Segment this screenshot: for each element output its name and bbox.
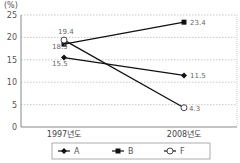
data-label: 15.5 [52,60,68,68]
y-tick-labels: 0510152025 [7,11,17,132]
series-line [64,22,184,44]
y-tick-label: 20 [7,33,17,42]
data-label: 23.4 [190,19,206,27]
x-category-label: 1997년도 [47,129,81,139]
x-category-label: 2008년도 [167,129,201,139]
circle-marker-icon [167,148,173,154]
y-tick-label: 5 [12,101,17,110]
square-marker-icon [116,149,121,154]
legend-label: B [128,147,134,156]
y-tick-label: 15 [7,56,17,65]
circle-marker-icon [61,37,67,43]
legend-label: F [180,147,185,156]
y-tick-label: 25 [7,11,17,20]
series-line [64,58,184,76]
y-axis-unit: (%) [4,1,18,10]
data-label: 11.5 [190,72,206,80]
data-label: 4.3 [189,105,200,113]
series-lines: 15.511.518.523.419.44.3 [52,19,206,113]
diamond-marker-icon [181,72,187,78]
y-tick-label: 10 [7,78,17,87]
legend-label: A [74,147,80,156]
data-label: 18.5 [52,43,68,51]
line-chart: 0510152025 (%) 1997년도2008년도 15.511.518.5… [0,0,240,163]
square-marker-icon [182,20,187,25]
data-label: 19.4 [58,28,74,36]
y-tick-label: 0 [12,123,17,132]
circle-marker-icon [181,105,187,111]
x-category-labels: 1997년도2008년도 [47,129,201,139]
series-line [64,40,184,108]
legend: ABF [52,143,210,159]
